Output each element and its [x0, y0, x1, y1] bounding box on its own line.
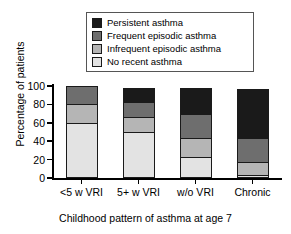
legend-label: Persistent asthma: [107, 18, 183, 28]
chart-figure: Persistent asthma Frequent episodic asth…: [0, 0, 291, 234]
legend-swatch-infrequent-episodic-asthma: [92, 44, 102, 54]
legend-item: Infrequent episodic asthma: [92, 42, 248, 55]
bar-segment: [237, 138, 269, 162]
bar-w-o-vri: [180, 88, 212, 178]
chart-legend: Persistent asthma Frequent episodic asth…: [86, 12, 254, 72]
bar-segment: [180, 88, 212, 114]
legend-item: Frequent episodic asthma: [92, 29, 248, 42]
bar-5-w-vri: [123, 88, 155, 178]
x-axis-category-label: 5+ w VRI: [117, 186, 160, 198]
x-axis-line: [52, 178, 282, 180]
x-axis-category-label: w/o VRI: [177, 186, 214, 198]
y-axis-tick-label: 20: [21, 154, 45, 166]
x-axis-tick: [81, 179, 83, 184]
legend-swatch-persistent-asthma: [92, 18, 102, 28]
bar-segment: [180, 157, 212, 178]
legend-item: No recent asthma: [92, 55, 248, 68]
x-axis-category-label: Chronic: [234, 186, 270, 198]
bar-segment: [123, 88, 155, 102]
bar-segment: [123, 117, 155, 132]
y-axis-tick-label: 0: [21, 172, 45, 184]
bar-segment: [66, 86, 98, 103]
plot-area: [53, 86, 281, 178]
legend-swatch-frequent-episodic-asthma: [92, 31, 102, 41]
bar-segment: [66, 104, 98, 123]
x-axis-title: Childhood pattern of asthma at age 7: [0, 212, 291, 224]
bar-segment: [237, 89, 269, 139]
bar-segment: [237, 162, 269, 175]
y-axis-tick-labels: 020406080100: [19, 0, 45, 234]
x-axis-category-label: <5 w VRI: [60, 186, 103, 198]
bar-segment: [237, 175, 269, 178]
bar-chronic: [237, 89, 269, 178]
legend-item: Persistent asthma: [92, 16, 248, 29]
y-axis-tick-label: 80: [21, 98, 45, 110]
y-axis-tick-label: 100: [21, 80, 45, 92]
bar-5-w-vri: [66, 86, 98, 178]
x-axis-tick: [195, 179, 197, 184]
bar-segment: [123, 132, 155, 178]
legend-label: No recent asthma: [107, 57, 182, 67]
y-axis-tick-label: 60: [21, 117, 45, 129]
legend-label: Frequent episodic asthma: [107, 31, 216, 41]
legend-label: Infrequent episodic asthma: [107, 44, 221, 54]
x-axis-tick: [252, 179, 254, 184]
bar-segment: [66, 123, 98, 178]
legend-swatch-no-recent-asthma: [92, 57, 102, 67]
x-axis-tick: [138, 179, 140, 184]
bar-segment: [180, 138, 212, 156]
y-axis-tick-label: 40: [21, 135, 45, 147]
bar-segment: [123, 102, 155, 118]
bar-segment: [180, 114, 212, 139]
